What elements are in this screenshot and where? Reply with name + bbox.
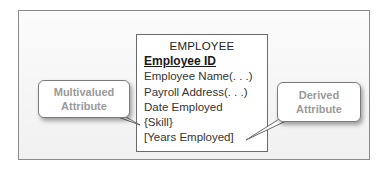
attribute-payroll-address: Payroll Address(. . .) — [144, 85, 267, 100]
entity-identifier: Employee ID — [144, 54, 267, 69]
entity-employee: EMPLOYEE Employee ID Employee Name(. . .… — [136, 34, 268, 152]
callout-right-line1: Derived — [299, 88, 339, 102]
attribute-years-employed: [Years Employed] — [144, 130, 267, 145]
callout-right-line2: Attribute — [296, 102, 342, 116]
attribute-date-employed: Date Employed — [144, 100, 267, 115]
callout-multivalued-attribute: Multivalued Attribute — [38, 80, 130, 118]
callout-left-line2: Attribute — [61, 99, 107, 113]
callout-derived-attribute: Derived Attribute — [277, 82, 361, 122]
attribute-skill: {Skill} — [144, 115, 267, 130]
callout-left-line1: Multivalued — [54, 85, 115, 99]
entity-name: EMPLOYEE — [144, 39, 267, 54]
attribute-employee-name: Employee Name(. . .) — [144, 69, 267, 84]
